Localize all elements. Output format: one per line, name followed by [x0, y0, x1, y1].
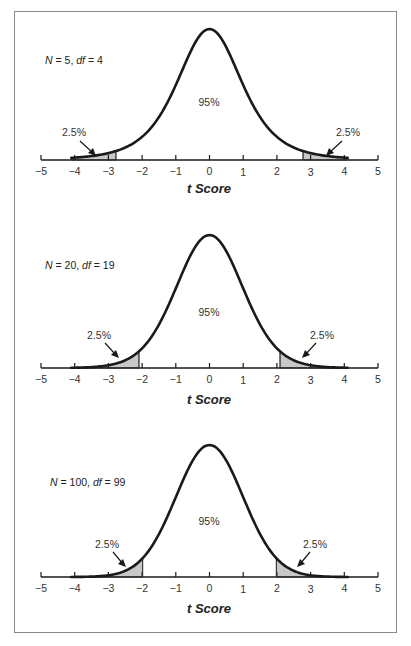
x-tick-label: −5: [35, 165, 47, 177]
left-arrow-icon: [105, 343, 119, 358]
panel-df99: −5−4−3−2−1012345 N = 100, df = 99 95% 2.…: [35, 445, 381, 616]
t-distribution-curve: [71, 29, 347, 158]
x-tick-label: −2: [136, 165, 148, 177]
panel-df19: −5−4−3−2−1012345 N = 20, df = 19 95% 2.5…: [35, 235, 381, 407]
x-tick-label: 1: [240, 166, 246, 178]
x-tick-label: −4: [69, 165, 81, 177]
x-tick-label: 1: [240, 583, 246, 595]
x-tick-label: −5: [35, 582, 47, 594]
right-arrow-icon: [302, 343, 316, 358]
right-arrow-icon: [297, 552, 310, 567]
t-distribution-curve: [71, 235, 347, 368]
left-tail-label: 2.5%: [87, 329, 111, 341]
x-tick-label: 0: [207, 165, 213, 177]
x-tick-label: −4: [69, 582, 81, 594]
x-tick-label: 3: [308, 166, 314, 178]
x-axis-title: t Score: [187, 181, 231, 196]
sample-condition-label: N = 5, df = 4: [45, 54, 103, 66]
t-distribution-figure: −5−4−3−2−1012345 N = 5, df = 4 95% 2.5% …: [0, 0, 411, 646]
x-tick-label: −3: [102, 582, 114, 594]
left-tail-label: 2.5%: [62, 126, 86, 138]
x-axis-title: t Score: [187, 601, 231, 616]
x-tick-label: −3: [102, 373, 114, 385]
right-arrow-icon: [326, 141, 342, 156]
left-arrow-icon: [113, 552, 126, 567]
panel-df4: −5−4−3−2−1012345 N = 5, df = 4 95% 2.5% …: [35, 29, 381, 196]
x-tick-label: −2: [136, 582, 148, 594]
x-tick-label: −1: [170, 165, 182, 177]
x-tick-label: 4: [341, 165, 347, 177]
x-tick-label: 2: [274, 582, 280, 594]
right-tail-label: 2.5%: [310, 329, 334, 341]
left-arrow-icon: [80, 141, 96, 156]
center-area-label: 95%: [198, 96, 219, 108]
right-tail-label: 2.5%: [336, 126, 360, 138]
x-tick-label: −1: [170, 373, 182, 385]
x-tick-label: −1: [170, 582, 182, 594]
x-tick-label: 3: [308, 374, 314, 386]
sample-condition-label: N = 100, df = 99: [50, 476, 126, 488]
x-tick-label: −4: [69, 373, 81, 385]
x-tick-label: −5: [35, 373, 47, 385]
x-tick-label: 5: [375, 165, 381, 177]
x-tick-label: −2: [136, 373, 148, 385]
x-tick-label: 0: [207, 582, 213, 594]
x-tick-label: 2: [274, 373, 280, 385]
center-area-label: 95%: [198, 515, 219, 527]
x-tick-label: 5: [375, 582, 381, 594]
sample-condition-label: N = 20, df = 19: [45, 259, 115, 271]
center-area-label: 95%: [198, 306, 219, 318]
x-tick-label: 2: [274, 165, 280, 177]
right-tail-label: 2.5%: [303, 538, 327, 550]
x-tick-label: 1: [240, 374, 246, 386]
left-tail-label: 2.5%: [95, 538, 119, 550]
x-tick-label: 3: [308, 583, 314, 595]
x-tick-label: −3: [102, 165, 114, 177]
x-axis-title: t Score: [187, 392, 231, 407]
x-tick-label: 5: [375, 373, 381, 385]
x-tick-label: 4: [341, 373, 347, 385]
x-tick-label: 4: [341, 582, 347, 594]
x-tick-label: 0: [207, 373, 213, 385]
